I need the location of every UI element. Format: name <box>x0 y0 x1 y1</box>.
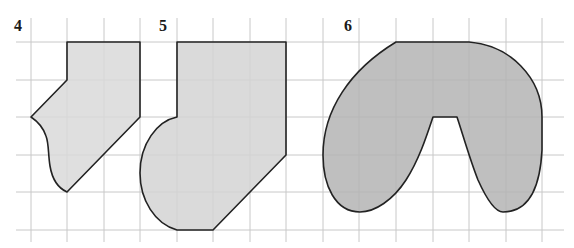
shape-label-5: 5 <box>159 17 167 34</box>
shape-label-6: 6 <box>344 17 352 34</box>
grid-figure: 4 5 6 <box>0 0 574 248</box>
shape-4 <box>31 42 140 192</box>
shape-label-4: 4 <box>14 17 22 34</box>
shape-5 <box>140 42 286 230</box>
